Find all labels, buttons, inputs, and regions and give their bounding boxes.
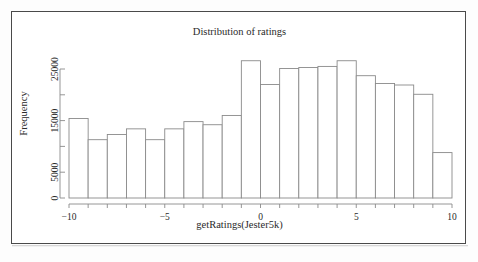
histogram-bar xyxy=(299,67,318,198)
chart-title: Distribution of ratings xyxy=(12,26,467,37)
histogram-bar xyxy=(414,94,433,198)
histogram-bar xyxy=(241,61,260,198)
histogram-bar xyxy=(318,66,337,198)
top-cutoff-text-strip xyxy=(0,0,478,10)
histogram-bar xyxy=(261,84,280,198)
y-tick-label: 25000 xyxy=(50,57,60,81)
screenshot-root: Distribution of ratings getRatings(Jeste… xyxy=(0,0,478,262)
y-axis: 050001500025000 xyxy=(50,57,65,201)
histogram-svg: 050001500025000 −10−50510 xyxy=(12,12,467,245)
y-tick-label: 0 xyxy=(50,195,60,200)
histogram-bar xyxy=(337,61,356,198)
histogram-plot-area: Distribution of ratings getRatings(Jeste… xyxy=(12,12,467,245)
x-axis-label: getRatings(Jester5k) xyxy=(12,219,467,230)
histogram-bar xyxy=(107,135,126,198)
figure-frame: Distribution of ratings getRatings(Jeste… xyxy=(11,11,466,244)
y-axis-label: Frequency xyxy=(18,59,29,169)
histogram-bar xyxy=(88,140,107,198)
histogram-bar xyxy=(203,125,222,198)
histogram-bar xyxy=(165,129,184,198)
y-tick-label: 15000 xyxy=(50,108,60,132)
histogram-bar xyxy=(356,76,375,198)
histogram-bar xyxy=(280,68,299,198)
histogram-bar xyxy=(395,85,414,198)
histogram-bar xyxy=(222,115,241,198)
histogram-bar xyxy=(184,122,203,198)
histogram-bar xyxy=(375,83,394,198)
y-tick-label: 5000 xyxy=(50,162,60,181)
histogram-bar xyxy=(433,153,452,198)
histogram-bar xyxy=(69,119,88,198)
bars-group xyxy=(69,61,452,198)
frame-drop-shadow xyxy=(12,245,468,247)
histogram-bar xyxy=(146,140,165,198)
histogram-bar xyxy=(126,129,145,198)
